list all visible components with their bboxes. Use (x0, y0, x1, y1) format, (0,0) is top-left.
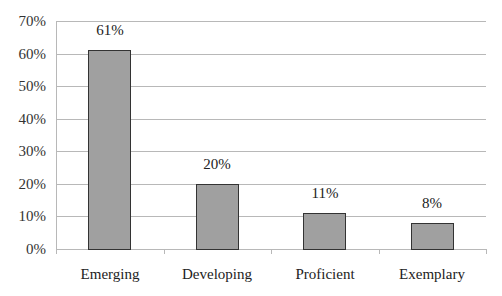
value-label: 61% (70, 22, 150, 38)
value-label: 8% (392, 195, 472, 211)
y-tick-label: 50% (2, 78, 46, 94)
bar-exemplary (411, 223, 454, 250)
x-tick (486, 249, 487, 254)
x-tick (164, 249, 165, 254)
y-tick-label: 70% (2, 13, 46, 29)
value-label: 20% (177, 156, 257, 172)
x-tick (56, 249, 57, 254)
y-tick-label: 10% (2, 208, 46, 224)
y-axis (56, 21, 57, 254)
bar-chart: 0%10%20%30%40%50%60%70%61%Emerging20%Dev… (0, 0, 502, 296)
category-label: Emerging (60, 266, 160, 282)
bar-developing (196, 184, 239, 250)
bar-proficient (303, 213, 346, 250)
bar-emerging (88, 50, 131, 250)
category-label: Developing (167, 266, 267, 282)
y-tick-label: 0% (2, 241, 46, 257)
category-label: Exemplary (382, 266, 482, 282)
y-tick-label: 20% (2, 176, 46, 192)
value-label: 11% (285, 185, 365, 201)
y-tick-label: 60% (2, 46, 46, 62)
y-tick-label: 40% (2, 111, 46, 127)
category-label: Proficient (275, 266, 375, 282)
y-tick-label: 30% (2, 143, 46, 159)
x-tick (271, 249, 272, 254)
x-tick (379, 249, 380, 254)
